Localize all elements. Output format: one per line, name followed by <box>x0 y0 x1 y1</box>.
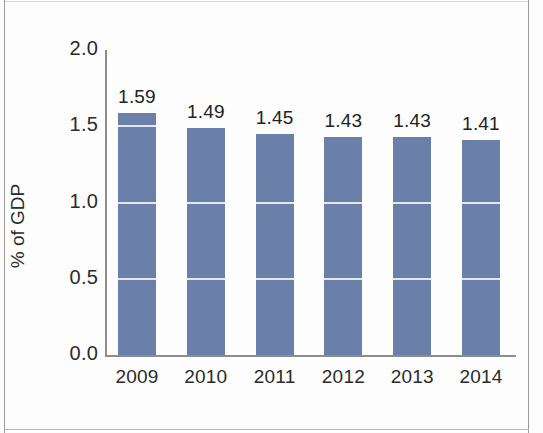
bar-chart-figure: % of GDP 0.00.51.01.52.0 1.591.491.451.4… <box>0 0 543 433</box>
gridline <box>187 278 225 280</box>
gridline <box>393 202 431 204</box>
gridline <box>462 202 500 204</box>
figure-frame-right <box>528 0 529 433</box>
figure-frame-top <box>4 1 529 2</box>
x-axis-line <box>105 355 516 357</box>
gridline <box>393 278 431 280</box>
y-axis-tick-label: 2.0 <box>36 37 98 60</box>
bar <box>118 113 156 355</box>
y-axis-tick-label: 1.0 <box>36 190 98 213</box>
gridline <box>462 278 500 280</box>
bar-value-label: 1.41 <box>441 113 521 135</box>
figure-frame-left <box>4 0 5 433</box>
gridline <box>118 202 156 204</box>
figure-frame-bottom <box>4 429 529 430</box>
gridline <box>118 278 156 280</box>
gridline <box>256 278 294 280</box>
bar <box>256 134 294 355</box>
bar <box>462 140 500 355</box>
y-axis-tick-label: 1.5 <box>36 113 98 136</box>
y-axis-tick-label: 0.5 <box>36 266 98 289</box>
bar <box>187 128 225 355</box>
bar <box>393 137 431 355</box>
x-axis-tick-label: 2014 <box>441 366 521 388</box>
gridline <box>187 202 225 204</box>
gridline <box>118 125 156 127</box>
bar <box>324 137 362 355</box>
y-axis-title: % of GDP <box>7 146 29 306</box>
gridline <box>324 202 362 204</box>
y-axis-tick-label: 0.0 <box>36 342 98 365</box>
gridline <box>256 202 294 204</box>
gridline <box>324 278 362 280</box>
